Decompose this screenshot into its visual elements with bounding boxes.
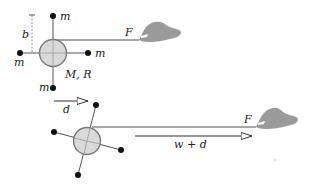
mass-top [50,13,56,19]
force-label-top: F [124,26,133,39]
mass-bottom [50,85,56,91]
mass-label-top: m [60,10,70,23]
bottom-figure: w + d F [51,102,298,178]
mass-bottom-fig-left [51,129,57,135]
d-label: d [63,103,70,116]
mass-bottom-fig-bottom [75,172,81,178]
mass-label-left: m [14,56,24,69]
w-plus-d-label: w + d [174,138,207,151]
rotating-body-diagram: b m m m m M, R F d [0,0,316,193]
mass-label-bottom: m [39,81,49,94]
force-label-bottom: F [243,113,252,126]
top-figure: b m m m m M, R F [14,10,181,94]
mass-right [85,50,91,56]
hand-icon-bottom [256,108,298,129]
mass-bottom-fig-right [118,147,124,153]
hand-icon-top [139,22,181,42]
disk-label: M, R [64,68,92,81]
b-label: b [22,28,29,41]
displacement-arrow: d [54,101,88,116]
mass-label-right: m [95,47,105,60]
mass-bottom-fig-top [93,102,99,108]
stray-dot [274,159,276,161]
